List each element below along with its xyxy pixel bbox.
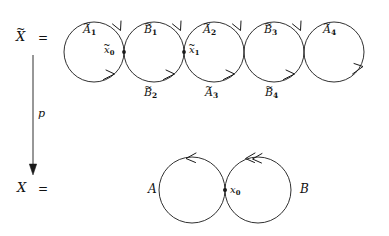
covering-label-B3: ~B3 [264,24,277,37]
covering-basepoint-x0-sub: 0 [110,49,115,57]
base-loop-B-label: B [300,183,309,195]
total-space-label: ~X [16,30,25,43]
base-basepoint-label: x0 [230,185,240,197]
total-space-equals: = [38,32,48,44]
base-basepoint-sub: 0 [236,189,241,197]
covering-basepoint-x1-sub: 1 [195,49,200,57]
base-space-label: X [17,181,26,194]
covering-label-B2-sub: 2 [152,91,157,100]
arrowhead-loop-B [246,153,263,163]
tilde-accent-b2: ~ [144,82,152,91]
covering-arrowheads-bottom [104,64,364,80]
tilde-accent-a2: ~ [203,19,211,28]
covering-label-B1: ~B1 [144,24,157,37]
covering-basepoint-x1-label: ~x1 [189,45,199,57]
tilde-accent-b4: ~ [265,82,273,91]
base-space-equals: = [38,183,48,195]
tilde-accent-total: ~ [16,24,25,35]
covering-label-A4: ~A4 [323,24,336,37]
base-basepoint-dot [223,188,227,192]
covering-label-B4-sub: 4 [273,91,278,100]
covering-label-A2-sub: 2 [211,28,216,37]
covering-label-B3-sub: 3 [272,28,277,37]
tilde-accent-a3: ~ [205,82,213,91]
basepoint-dot-x0 [122,50,126,54]
covering-label-A4-sub: 4 [331,28,336,37]
covering-label-B4: ~B4 [265,87,278,100]
base-loop-A-label: A [148,183,157,195]
covering-basepoint-x0-label: ~x0 [104,45,114,57]
covering-label-B2: ~B2 [144,87,157,100]
covering-label-B1-sub: 1 [152,28,157,37]
covering-label-A2: ~A2 [203,24,216,37]
arrowhead-loop-A [186,153,196,163]
tilde-accent-b1: ~ [144,19,152,28]
basepoint-dot-x1 [182,50,186,54]
tilde-accent-a4: ~ [323,19,331,28]
projection-arrow-head [29,164,36,175]
covering-label-A3: ~A3 [205,87,218,100]
tilde-accent-b3: ~ [264,19,272,28]
base-circle-A [159,157,225,223]
covering-label-A1-sub: 1 [91,28,96,37]
covering-label-A1: ~A1 [83,24,96,37]
tilde-accent-x1: ~ [188,41,195,50]
covering-label-A3-sub: 3 [213,91,218,100]
projection-arrow [29,55,36,175]
tilde-accent-a1: ~ [83,19,91,28]
projection-map-label: p [38,108,45,119]
tilde-accent-x0: ~ [103,41,110,50]
covering-basepoint-dots [122,50,186,54]
